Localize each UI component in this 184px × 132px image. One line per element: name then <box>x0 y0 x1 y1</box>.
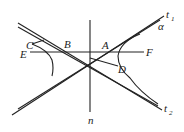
line-t2-inner <box>18 27 158 106</box>
label-t2-sub: 2 <box>169 109 173 117</box>
label-f: F <box>145 46 153 58</box>
label-c: C <box>26 39 34 51</box>
label-b: B <box>64 38 71 50</box>
label-d: D <box>117 63 126 75</box>
label-a: A <box>101 39 109 51</box>
label-n: n <box>88 114 94 126</box>
label-e: E <box>19 48 27 60</box>
label-alpha: α <box>158 20 164 32</box>
hyperbola-left-branch <box>32 44 53 76</box>
segment-c <box>32 40 44 44</box>
label-t2: t <box>164 102 168 114</box>
diagram-canvas: C B A E F D n t 1 α t 2 <box>0 0 184 132</box>
label-t1-sub: 1 <box>171 15 175 23</box>
geometry-figure: C B A E F D n t 1 α t 2 <box>0 0 184 132</box>
label-t1: t <box>166 8 170 20</box>
